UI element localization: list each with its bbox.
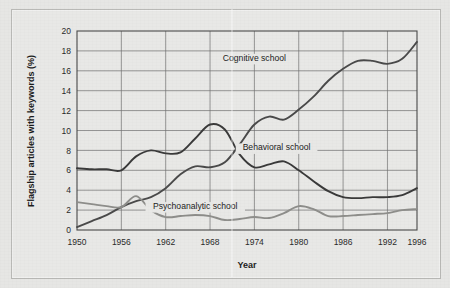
x-tick-label: 1968 [201, 237, 220, 247]
y-tick-label: 10 [62, 126, 72, 136]
x-tick-label: 1962 [156, 237, 175, 247]
y-tick-label: 18 [62, 46, 72, 56]
y-tick-label: 8 [66, 146, 71, 156]
y-axis-tick-labels: 02468101214161820 [62, 26, 72, 235]
series-label-cognitive-school: Cognitive school [223, 53, 286, 63]
x-axis-title: Year [237, 260, 257, 270]
y-axis-title: Flagship articles with keywords (%) [26, 55, 36, 207]
y-tick-label: 16 [62, 66, 72, 76]
y-tick-label: 20 [62, 26, 72, 36]
y-tick-label: 0 [66, 225, 71, 235]
y-tick-label: 12 [62, 106, 72, 116]
chart-series-lines [77, 42, 417, 227]
x-tick-label: 1974 [245, 237, 264, 247]
y-tick-label: 2 [66, 205, 71, 215]
series-label-behavioral-school: Behavioral school [243, 142, 311, 152]
series-line-psychoanalytic-school [77, 196, 417, 220]
series-line-cognitive-school [77, 42, 417, 227]
x-tick-label: 1992 [378, 237, 397, 247]
y-tick-label: 14 [62, 86, 72, 96]
x-tick-label: 1986 [334, 237, 353, 247]
chart-figure: 02468101214161820 1950195619621968197419… [0, 0, 450, 288]
chart-plot-area: 02468101214161820 1950195619621968197419… [0, 0, 450, 288]
y-tick-label: 6 [66, 165, 71, 175]
x-tick-label: 1996 [408, 237, 427, 247]
x-tick-label: 1980 [289, 237, 308, 247]
y-tick-label: 4 [66, 185, 71, 195]
series-label-psychoanalytic-school: Psychoanalytic school [153, 201, 238, 211]
x-axis-tick-labels: 195019561962196819741980198619921996 [68, 237, 427, 247]
series-inline-labels: Cognitive schoolBehavioral schoolPsychoa… [146, 53, 318, 213]
x-tick-label: 1956 [112, 237, 131, 247]
line-chart-svg: 02468101214161820 1950195619621968197419… [0, 0, 450, 288]
x-tick-label: 1950 [68, 237, 87, 247]
